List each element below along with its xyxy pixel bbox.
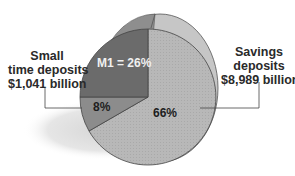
savings-deposits-callout-line3: $8,989 billion <box>221 73 295 87</box>
pie-front <box>80 29 216 165</box>
small-deposits-callout-line3: $1,041 billion <box>8 77 86 91</box>
savings-deposits-callout-line1: Savings <box>221 45 295 59</box>
savings-deposits-callout: Savings deposits $8,989 billion <box>221 45 295 87</box>
small-deposits-callout-line2: time deposits <box>8 63 86 77</box>
m1-slice-label: M1 = 26% <box>97 56 151 70</box>
small-deposits-callout-line1: Small <box>8 49 86 63</box>
small-deposits-callout: Small time deposits $1,041 billion <box>8 49 86 91</box>
small-deposits-slice-label: 8% <box>93 100 110 114</box>
savings-deposits-callout-line2: deposits <box>221 59 295 73</box>
savings-slice-label: 66% <box>153 106 177 120</box>
